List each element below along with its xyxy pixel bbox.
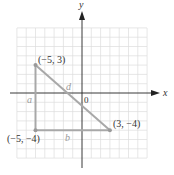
segment-label-b: b: [65, 133, 70, 143]
origin-label: 0: [84, 96, 89, 105]
y-axis-arrow-icon: [79, 11, 85, 20]
axes: [10, 15, 155, 168]
point-label-neg5-neg4: (−5, −4): [7, 134, 40, 144]
point-neg5-neg4: [34, 128, 38, 132]
segment-label-a: a: [27, 95, 32, 105]
x-axis-label: x: [163, 88, 167, 98]
segment-label-d: d: [66, 82, 71, 92]
coordinate-plane: [0, 0, 174, 175]
point-3-neg4: [108, 128, 112, 132]
point-neg5-3: [34, 63, 38, 67]
point-label-3-neg4: (3, −4): [113, 119, 140, 129]
y-axis-label: y: [79, 0, 83, 10]
point-label-neg5-3: (−5, 3): [38, 55, 65, 65]
x-axis-arrow-icon: [151, 90, 160, 96]
